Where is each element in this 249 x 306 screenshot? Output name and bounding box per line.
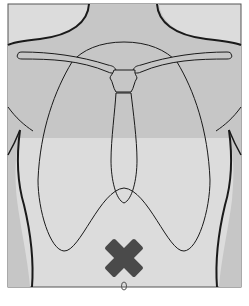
manubrium bbox=[110, 70, 137, 92]
torso-diagram bbox=[0, 0, 249, 306]
